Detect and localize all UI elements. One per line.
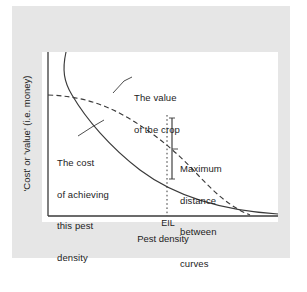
annotation-cost-line-1: The cost bbox=[57, 158, 109, 169]
annotation-max-distance-line-3: between bbox=[180, 227, 222, 238]
annotation-max-distance-line-1: Maximum bbox=[180, 164, 222, 175]
annotation-max-distance-line-2: distance bbox=[180, 196, 222, 207]
annotation-crop-value-line-2: of the crop bbox=[134, 125, 180, 136]
annotation-crop-value-line-1: The value bbox=[134, 93, 180, 104]
y-axis-label: 'Cost' or 'value' (i.e. money) bbox=[21, 59, 32, 209]
annotation-max-distance: Maximum distance between curves bbox=[180, 143, 222, 290]
annotation-max-distance-line-4: curves bbox=[180, 259, 222, 270]
figure-root: 'Cost' or 'value' (i.e. money) Pest dens… bbox=[0, 0, 307, 292]
crop-value-leader-line bbox=[113, 77, 132, 93]
annotation-cost-line-3: this pest bbox=[57, 221, 109, 232]
annotation-cost: The cost of achieving this pest density bbox=[57, 137, 109, 284]
annotation-cost-line-4: density bbox=[57, 253, 109, 264]
annotation-crop-value: The value of the crop bbox=[134, 72, 180, 156]
annotation-cost-line-2: of achieving bbox=[57, 190, 109, 201]
